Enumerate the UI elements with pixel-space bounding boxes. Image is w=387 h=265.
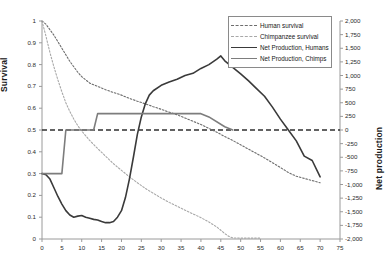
y-axis-right-tick: 1,250 xyxy=(345,58,371,65)
x-axis-tick: 5 xyxy=(54,244,70,251)
chart-canvas: Survival Net production Human survivalCh… xyxy=(0,0,387,265)
series-line-3 xyxy=(42,114,233,174)
chart-legend: Human survivalChimpanzee survivalNet Pro… xyxy=(228,16,332,68)
x-axis-tick: 65 xyxy=(292,244,308,251)
y-axis-right-tick: 0 xyxy=(345,126,371,133)
x-axis-tick: 60 xyxy=(272,244,288,251)
legend-label: Net Production, Chimps xyxy=(260,55,327,62)
y-axis-right-tick: -1,000 xyxy=(345,181,371,188)
x-axis-tick: 20 xyxy=(113,244,129,251)
x-axis-tick: 25 xyxy=(133,244,149,251)
x-axis-tick: 45 xyxy=(213,244,229,251)
y-axis-right-tick: 500 xyxy=(345,99,371,106)
legend-swatch-icon xyxy=(231,33,257,40)
y-axis-left-tick: 0.4 xyxy=(14,148,36,155)
x-axis-tick: 40 xyxy=(193,244,209,251)
y-axis-right-tick: 1,750 xyxy=(345,31,371,38)
y-axis-left-tick: 0.8 xyxy=(14,61,36,68)
x-axis-tick: 50 xyxy=(233,244,249,251)
x-axis-tick: 75 xyxy=(332,244,348,251)
legend-swatch-icon xyxy=(231,55,257,62)
y-axis-right-tick: 1,500 xyxy=(345,44,371,51)
y-axis-right-tick: -500 xyxy=(345,153,371,160)
y-axis-left-tick: 0.5 xyxy=(14,126,36,133)
legend-item: Human survival xyxy=(231,20,328,31)
y-axis-left-tick: 0.2 xyxy=(14,191,36,198)
x-axis-tick: 55 xyxy=(253,244,269,251)
legend-label: Net Production, Humans xyxy=(260,44,329,51)
x-axis-tick: 15 xyxy=(94,244,110,251)
legend-item: Net Production, Humans xyxy=(231,42,328,53)
y-axis-left-tick: 0.9 xyxy=(14,39,36,46)
legend-item: Net Production, Chimps xyxy=(231,53,328,64)
y-axis-left-tick: 0 xyxy=(14,235,36,242)
legend-label: Chimpanzee survival xyxy=(260,33,318,40)
y-axis-right-tick: -1,500 xyxy=(345,208,371,215)
x-axis-tick: 10 xyxy=(74,244,90,251)
y-axis-left-tick: 1 xyxy=(14,17,36,24)
x-axis-tick: 30 xyxy=(153,244,169,251)
y-axis-left-tick: 0.3 xyxy=(14,170,36,177)
legend-label: Human survival xyxy=(260,22,303,29)
x-axis-tick: 70 xyxy=(312,244,328,251)
y-axis-right-tick: -1,750 xyxy=(345,221,371,228)
y-axis-right-tick: 750 xyxy=(345,85,371,92)
x-axis-tick: 0 xyxy=(34,244,50,251)
y-axis-right-tick: 250 xyxy=(345,112,371,119)
y-axis-right-tick: -2,000 xyxy=(345,235,371,242)
y-axis-left-tick: 0.6 xyxy=(14,104,36,111)
legend-item: Chimpanzee survival xyxy=(231,31,328,42)
legend-swatch-icon xyxy=(231,22,257,29)
y-axis-right-tick: 2,000 xyxy=(345,17,371,24)
y-axis-right-tick: -1,250 xyxy=(345,194,371,201)
y-axis-left-tick: 0.1 xyxy=(14,213,36,220)
legend-swatch-icon xyxy=(231,44,257,51)
y-axis-left-tick: 0.7 xyxy=(14,82,36,89)
x-axis-tick: 35 xyxy=(173,244,189,251)
y-axis-right-tick: -250 xyxy=(345,140,371,147)
y-axis-right-tick: 1,000 xyxy=(345,72,371,79)
series-line-2 xyxy=(42,56,320,223)
y-axis-right-tick: -750 xyxy=(345,167,371,174)
